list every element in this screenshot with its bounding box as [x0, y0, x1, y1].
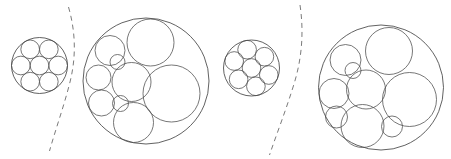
packing-3-circle: [255, 47, 274, 66]
figure-canvas: [0, 0, 451, 159]
packing-1-circle: [12, 56, 31, 75]
packing-3-circle: [247, 77, 266, 96]
packing-4-circle: [345, 63, 361, 79]
packing-1-container: [12, 38, 68, 94]
packing-4-circle: [382, 116, 403, 137]
packing-2-circle: [86, 65, 111, 90]
circle-packing-figure: [0, 0, 451, 159]
packing-3-circle: [238, 40, 257, 59]
packing-4-circle: [347, 70, 386, 109]
packing-1-circle: [40, 40, 59, 59]
packing-3-circle: [225, 52, 244, 71]
packing-1-circle: [40, 72, 59, 91]
packing-4-circle: [319, 79, 349, 109]
packing-1-circle: [49, 56, 68, 75]
packing-3-circle: [229, 70, 248, 89]
packing-2-circle: [110, 55, 125, 70]
packing-group-4: [319, 25, 444, 150]
dashed-arc-right: [270, 5, 303, 155]
packing-1-circle: [21, 72, 40, 91]
packing-group-1: [12, 38, 68, 94]
packing-3-container: [224, 40, 280, 96]
packing-4-circle: [366, 28, 413, 75]
packing-group-3: [224, 40, 280, 96]
packing-2-circle: [89, 90, 115, 116]
packing-4-circle: [341, 105, 384, 148]
packing-2-circle: [114, 103, 154, 143]
packing-1-circle: [30, 56, 49, 75]
packing-group-2: [83, 18, 209, 144]
packing-4-circle: [326, 106, 348, 128]
dashed-arc-left: [50, 7, 75, 151]
packing-3-circle: [259, 66, 278, 85]
packing-3-circle: [242, 59, 261, 78]
packing-1-circle: [21, 40, 40, 59]
packing-4-circle: [383, 73, 437, 127]
packing-2-circle: [127, 19, 174, 66]
packing-4-container: [319, 25, 444, 150]
packing-4-circle: [330, 45, 361, 76]
